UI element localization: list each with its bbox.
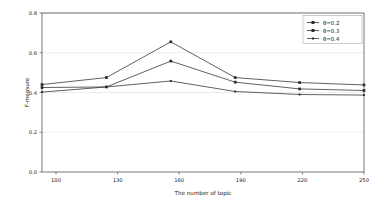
legend-marker-2 — [312, 38, 314, 40]
data-point — [105, 76, 108, 79]
y-tick-labels: 0.8 0.6 0.4 0.2 0.0 — [29, 10, 38, 175]
x-tick-label: 250 — [359, 177, 369, 183]
y-tick-label: 0.0 — [29, 169, 37, 175]
x-tick-labels: 100 130 160 190 220 250 — [51, 177, 369, 183]
x-tickmarks — [56, 172, 364, 175]
data-point — [234, 81, 237, 84]
data-point — [298, 88, 301, 91]
y-tick-label: 0.2 — [29, 129, 37, 135]
data-point — [169, 60, 172, 63]
y-tick-label: 0.6 — [29, 50, 37, 56]
legend-label-0: θ=0.2 — [323, 20, 339, 26]
data-point — [363, 94, 365, 96]
x-tick-label: 190 — [236, 177, 246, 183]
data-point — [234, 76, 237, 79]
x-tick-label: 160 — [174, 177, 184, 183]
legend-label-2: θ=0.4 — [323, 36, 340, 42]
x-axis-title: The number of topic — [174, 190, 232, 197]
data-point — [105, 86, 107, 88]
data-point — [41, 86, 44, 89]
legend: θ=0.2 θ=0.3 θ=0.4 — [303, 16, 362, 44]
data-point — [234, 91, 236, 93]
data-point — [41, 83, 44, 86]
legend-label-1: θ=0.3 — [323, 28, 339, 34]
data-point — [170, 80, 172, 82]
y-tick-label: 0.4 — [29, 90, 38, 96]
legend-marker-0 — [312, 21, 315, 24]
legend-marker-1 — [312, 29, 315, 32]
data-point — [169, 40, 172, 43]
x-tick-label: 220 — [297, 177, 307, 183]
y-tick-label: 0.8 — [29, 10, 37, 16]
data-point — [363, 84, 366, 87]
x-tick-label: 130 — [113, 177, 123, 183]
x-tick-label: 100 — [51, 177, 61, 183]
y-axis-title: F-measure — [24, 77, 30, 107]
data-point — [41, 91, 43, 93]
line-chart: 0.8 0.6 0.4 0.2 0.0 100 130 160 190 220 … — [0, 0, 381, 204]
data-point — [298, 81, 301, 84]
data-point — [363, 89, 366, 92]
figure-canvas: 0.8 0.6 0.4 0.2 0.0 100 130 160 190 220 … — [0, 0, 381, 204]
data-point — [299, 94, 301, 96]
